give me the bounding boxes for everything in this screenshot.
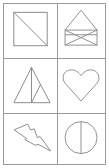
cell-circle-line[interactable]: [57, 114, 105, 164]
lightning-bolt-icon: [4, 114, 57, 164]
square-diagonal-icon: [4, 4, 57, 58]
heart-icon: [58, 59, 105, 113]
cell-heart[interactable]: [57, 59, 105, 114]
cell-square-diagonal[interactable]: [4, 4, 57, 59]
cell-split-triangle[interactable]: [4, 59, 57, 114]
cell-lightning-bolt[interactable]: [4, 114, 57, 164]
house-envelope-icon: [58, 4, 105, 58]
shape-grid: [3, 3, 106, 165]
split-triangle-icon: [4, 59, 57, 113]
circle-vertical-line-icon: [58, 114, 105, 164]
cell-house-envelope[interactable]: [57, 4, 105, 59]
